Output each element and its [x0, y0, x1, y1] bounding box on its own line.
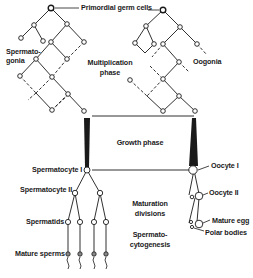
label-multiplication-1: Multiplication — [80, 59, 140, 67]
label-spermatocyte-1: Spermatocyte I — [32, 166, 82, 174]
label-mature-sperms: Mature sperms — [15, 250, 65, 258]
label-polar-bodies: Polar bodies — [205, 229, 247, 237]
label-spermatocytogenesis-2: cytogenesis — [120, 241, 180, 249]
label-maturation-2: divisions — [120, 210, 180, 218]
label-oocyte-1: Oocyte I — [211, 162, 239, 170]
label-spermatogonia-1: Spermato- — [6, 48, 41, 56]
label-multiplication-2: phase — [80, 69, 140, 77]
label-oocyte-2: Oocyte II — [209, 189, 238, 197]
label-oogonia: Oogonia — [193, 58, 221, 66]
label-spermatocytogenesis-1: Spermato- — [120, 231, 180, 239]
label-spermatocyte-2: Spermatocyte II — [20, 186, 72, 194]
label-mature-egg: Mature egg — [212, 217, 249, 225]
label-growth-phase: Growth phase — [110, 139, 170, 147]
label-primordial-germ-cells: Primordial germ cells — [81, 4, 152, 12]
label-spermatogonia-2: gonia — [6, 57, 25, 65]
label-spermatids: Spermatids — [26, 218, 64, 226]
gametogenesis-diagram: Primordial germ cells Spermato- gonia Mu… — [0, 0, 253, 278]
label-maturation-1: Maturation — [120, 200, 180, 208]
